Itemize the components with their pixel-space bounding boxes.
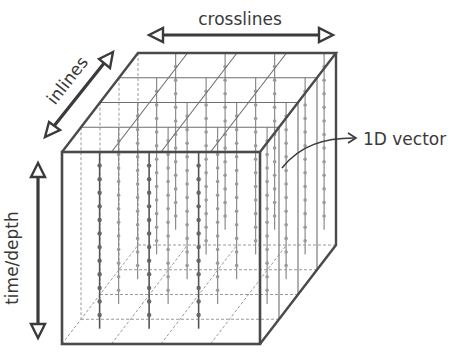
sample-dot	[166, 275, 170, 279]
sample-dot	[185, 264, 189, 268]
sample-dot	[185, 250, 189, 254]
sample-dot	[97, 286, 101, 290]
sample-dot	[254, 157, 258, 161]
sample-dot	[204, 225, 208, 229]
sample-dot	[166, 221, 170, 225]
sample-dot	[185, 182, 189, 186]
sample-dot	[284, 196, 288, 200]
sample-dot	[284, 128, 288, 132]
sample-dot	[155, 185, 159, 189]
sample-dot	[223, 173, 227, 177]
sample-dot	[155, 171, 159, 175]
sample-dot	[174, 78, 178, 82]
sample-dot	[147, 163, 151, 167]
sample-dot	[196, 163, 200, 167]
sample-dot	[136, 128, 140, 132]
sample-dot	[174, 214, 178, 218]
sample-dot	[204, 212, 208, 216]
vector-label: 1D vector	[363, 129, 446, 149]
sample-dot	[204, 157, 208, 161]
sample-dot	[216, 207, 220, 211]
sample-dot	[97, 191, 101, 195]
sample-dot	[196, 231, 200, 235]
sample-dot	[273, 173, 277, 177]
sample-dot	[265, 289, 269, 293]
sample-dot	[196, 177, 200, 181]
sample-dot	[223, 160, 227, 164]
sample-dot	[322, 119, 326, 123]
sample-dot	[303, 239, 307, 243]
sample-dot	[97, 259, 101, 263]
sample-dot	[155, 130, 159, 134]
sample-dot	[196, 272, 200, 276]
sample-dot	[284, 237, 288, 241]
sample-dot	[223, 106, 227, 110]
sample-dot	[303, 103, 307, 107]
sample-dot	[174, 92, 178, 96]
sample-dot	[303, 225, 307, 229]
sample-dot	[155, 117, 159, 121]
sample-dot	[303, 185, 307, 189]
sample-dot	[273, 78, 277, 82]
sample-dot	[284, 209, 288, 213]
sample-dot	[235, 182, 239, 186]
sample-dot	[147, 299, 151, 303]
sample-dot	[322, 92, 326, 96]
sample-dot	[196, 259, 200, 263]
sample-dot	[265, 261, 269, 265]
sample-dot	[185, 223, 189, 227]
sample-dot	[166, 261, 170, 265]
sample-dot	[97, 245, 101, 249]
sample-dot	[223, 187, 227, 191]
sample-dot	[223, 119, 227, 123]
sample-dot	[185, 128, 189, 132]
sample-dot	[273, 92, 277, 96]
sample-dot	[196, 245, 200, 249]
sample-dot	[235, 128, 239, 132]
sample-dot	[155, 212, 159, 216]
sample-dot	[273, 146, 277, 150]
sample-dot	[117, 234, 121, 238]
sample-dot	[97, 204, 101, 208]
sample-dot	[136, 223, 140, 227]
sample-dot	[185, 155, 189, 159]
sample-dot	[204, 239, 208, 243]
sample-dot	[254, 171, 258, 175]
sample-dot	[223, 92, 227, 96]
sample-dot	[97, 163, 101, 167]
sample-dot	[284, 169, 288, 173]
sample-dot	[166, 180, 170, 184]
sample-dot	[185, 237, 189, 241]
sample-dot	[196, 218, 200, 222]
sample-dot	[273, 160, 277, 164]
sample-dot	[254, 185, 258, 189]
sample-dot	[216, 261, 220, 265]
sample-dot	[273, 187, 277, 191]
sample-dot	[303, 157, 307, 161]
sample-dot	[204, 185, 208, 189]
sample-dot	[136, 196, 140, 200]
sample-dot	[303, 198, 307, 202]
sample-dot	[117, 180, 121, 184]
sample-dot	[235, 141, 239, 145]
sample-dot	[254, 239, 258, 243]
sample-dot	[97, 272, 101, 276]
sample-dot	[166, 234, 170, 238]
sample-dot	[155, 144, 159, 148]
sample-dot	[322, 78, 326, 82]
vector-pointer-arrow-icon	[282, 133, 356, 168]
sample-dot	[284, 264, 288, 268]
sample-dot	[216, 193, 220, 197]
sample-dot	[235, 155, 239, 159]
sample-dot	[235, 169, 239, 173]
sample-dot	[223, 78, 227, 82]
sample-dot	[235, 264, 239, 268]
sample-dot	[273, 214, 277, 218]
sample-dot	[204, 171, 208, 175]
sample-dot	[235, 223, 239, 227]
sample-dot	[166, 289, 170, 293]
sample-dot	[322, 187, 326, 191]
sample-dot	[284, 223, 288, 227]
sample-dot	[284, 182, 288, 186]
crosslines-label: crosslines	[198, 9, 282, 29]
